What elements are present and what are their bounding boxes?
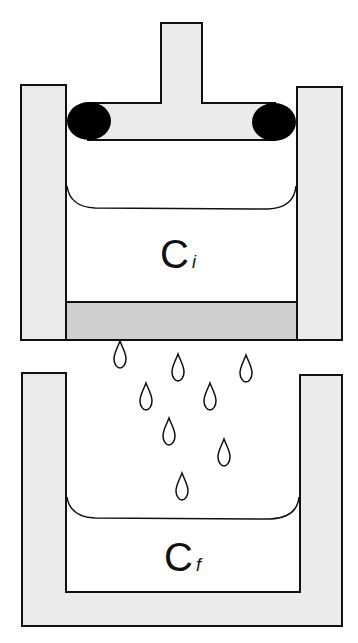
upper-left-wall [21,85,66,340]
droplet-icon [204,383,216,410]
droplets [114,341,252,500]
initial-concentration-label: Ci [160,232,196,277]
droplet-icon [140,383,152,410]
concentration-subscript: i [192,252,196,272]
droplet-icon [240,355,252,382]
droplet-icon [218,439,230,466]
concentration-subscript: f [196,555,201,575]
left-seal [67,102,111,140]
droplet-icon [176,473,188,500]
right-seal [252,103,296,141]
upper-liquid-surface [67,186,296,209]
concentration-symbol: C [164,535,193,579]
piston [88,23,275,140]
membrane [66,302,297,340]
droplet-icon [163,418,175,445]
droplet-icon [114,341,126,368]
concentration-symbol: C [160,232,189,276]
droplet-icon [172,354,184,381]
final-concentration-label: Cf [164,535,201,580]
upper-right-wall [297,87,342,340]
